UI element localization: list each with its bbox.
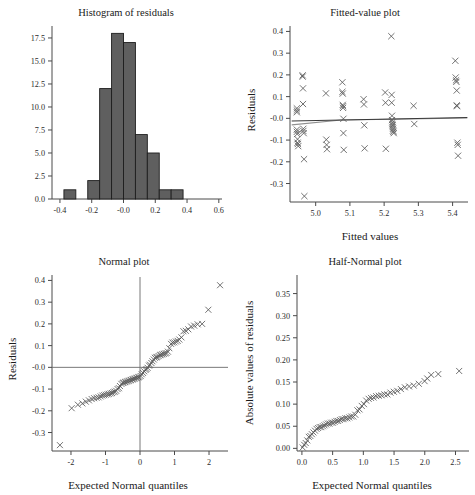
half-normal-x-axis: 0.00.51.01.52.02.5 xyxy=(297,451,469,467)
histogram-bar xyxy=(112,33,124,199)
data-point-marker xyxy=(361,401,367,407)
histogram-ytick-7: 17.5 xyxy=(31,34,45,43)
normal-plot-xtick-1: -1 xyxy=(102,458,109,467)
fitted-value-xtick-2: 5.2 xyxy=(379,209,389,218)
fitted-value-ylabel: Residuals xyxy=(245,89,257,132)
data-point-marker xyxy=(357,406,363,412)
histogram-bar xyxy=(147,153,159,199)
histogram-xtick-5: 0.6 xyxy=(214,206,224,215)
data-point-marker xyxy=(217,282,223,288)
histogram-xtick-3: 0.2 xyxy=(150,206,160,215)
normal-plot-xtick-0: -2 xyxy=(68,458,75,467)
data-point-marker xyxy=(75,402,81,408)
fitted-value-ytick-1: -0.2 xyxy=(270,158,283,167)
half-normal-xtick-1: 0.5 xyxy=(328,458,338,467)
normal-plot-xtick-2: 0 xyxy=(138,458,142,467)
data-point-marker xyxy=(148,360,154,366)
data-point-marker xyxy=(300,72,306,78)
data-point-marker xyxy=(428,372,434,378)
normal-plot-ytick-7: 0.4 xyxy=(35,276,45,285)
data-point-marker xyxy=(456,368,462,374)
normal-plot-svg: Normal plot Residuals Expected Normal qu… xyxy=(0,247,237,495)
data-point-marker xyxy=(205,307,211,313)
histogram-bar xyxy=(64,190,76,199)
fitted-value-fit-line xyxy=(292,117,468,120)
data-point-marker xyxy=(452,58,458,64)
histogram-bar xyxy=(171,190,183,199)
half-normal-ytick-3: 0.15 xyxy=(276,378,290,387)
data-point-marker xyxy=(389,100,395,106)
data-point-marker xyxy=(340,116,346,122)
histogram-bars xyxy=(64,33,183,199)
data-point-marker xyxy=(455,153,461,159)
half-normal-ytick-1: 0.05 xyxy=(276,422,290,431)
histogram-svg: Histogram of residuals 0.02.55.07.510.01… xyxy=(0,0,237,247)
data-point-marker xyxy=(382,89,388,95)
data-point-marker xyxy=(454,103,460,109)
histogram-bar xyxy=(100,89,112,199)
data-point-marker xyxy=(382,100,388,106)
panel-half-normal-plot: Half-Normal plot Absolute values of resi… xyxy=(237,247,475,495)
fitted-value-xtick-0: 5.0 xyxy=(311,209,321,218)
data-point-marker xyxy=(388,33,394,39)
normal-plot-ytick-6: 0.3 xyxy=(35,298,45,307)
normal-plot-ytick-3: -0.0 xyxy=(32,363,45,372)
data-point-marker xyxy=(339,79,345,85)
half-normal-ytick-0: 0.00 xyxy=(276,444,290,453)
histogram-title: Histogram of residuals xyxy=(78,7,174,18)
fitted-value-svg: Fitted-value plot Residuals Fitted value… xyxy=(237,0,475,247)
fitted-value-points xyxy=(294,33,461,199)
fitted-value-title: Fitted-value plot xyxy=(330,7,400,18)
half-normal-ytick-5: 0.25 xyxy=(276,334,290,343)
normal-plot-xlabel: Expected Normal quantiles xyxy=(68,479,188,491)
normal-plot-ytick-1: -0.2 xyxy=(32,407,45,416)
histogram-y-axis: 0.02.55.07.510.012.515.017.5 xyxy=(31,26,52,204)
histogram-bar xyxy=(123,43,135,199)
fitted-value-xtick-3: 5.3 xyxy=(413,209,423,218)
data-point-marker xyxy=(435,371,441,377)
data-point-marker xyxy=(361,122,367,128)
histogram-ytick-4: 10.0 xyxy=(31,103,45,112)
fitted-value-ytick-0: -0.3 xyxy=(270,180,283,189)
normal-plot-ytick-5: 0.2 xyxy=(35,320,45,329)
data-point-marker xyxy=(300,74,306,80)
histogram-ytick-2: 5.0 xyxy=(35,149,45,158)
fitted-value-y-axis: -0.3-0.2-0.1-0.00.10.20.30.4 xyxy=(270,26,290,202)
half-normal-ytick-6: 0.30 xyxy=(276,312,290,321)
data-point-marker xyxy=(324,146,330,152)
fitted-value-ytick-3: -0.0 xyxy=(270,114,283,123)
histogram-xtick-0: -0.4 xyxy=(53,206,66,215)
half-normal-title: Half-Normal plot xyxy=(328,256,401,267)
data-point-marker xyxy=(384,391,390,397)
data-point-marker xyxy=(346,414,352,420)
residual-diagnostics-panel: Histogram of residuals 0.02.55.07.510.01… xyxy=(0,0,475,495)
data-point-marker xyxy=(301,193,307,199)
half-normal-ytick-4: 0.20 xyxy=(276,356,290,365)
fitted-value-ytick-4: 0.1 xyxy=(273,93,283,102)
fitted-value-ytick-2: -0.1 xyxy=(270,136,283,145)
half-normal-xtick-3: 1.5 xyxy=(389,458,399,467)
half-normal-y-axis: 0.000.050.100.150.200.250.300.35 xyxy=(276,275,297,453)
data-point-marker xyxy=(383,146,389,152)
data-point-marker xyxy=(300,85,306,91)
half-normal-xtick-2: 1.0 xyxy=(358,458,368,467)
data-point-marker xyxy=(199,321,205,327)
normal-plot-title: Normal plot xyxy=(98,256,149,267)
normal-plot-ytick-0: -0.3 xyxy=(32,429,45,438)
data-point-marker xyxy=(300,101,306,107)
normal-plot-x-axis: -2-1012 xyxy=(52,451,228,467)
fitted-value-xtick-1: 5.1 xyxy=(345,209,355,218)
histogram-xtick-2: -0.0 xyxy=(117,206,130,215)
histogram-ytick-3: 7.5 xyxy=(35,126,45,135)
histogram-ytick-5: 12.5 xyxy=(31,80,45,89)
normal-plot-xtick-4: 2 xyxy=(207,458,211,467)
histogram-xtick-4: 0.4 xyxy=(182,206,192,215)
data-point-marker xyxy=(411,121,417,127)
histogram-ytick-6: 15.0 xyxy=(31,57,45,66)
normal-plot-reference-lines xyxy=(52,277,228,451)
data-point-marker xyxy=(416,381,422,387)
data-point-marker xyxy=(411,383,417,389)
normal-plot-ylabel: Residuals xyxy=(6,338,18,381)
half-normal-xlabel: Expected Normal quantiles xyxy=(312,479,432,491)
histogram-bar xyxy=(88,181,100,199)
